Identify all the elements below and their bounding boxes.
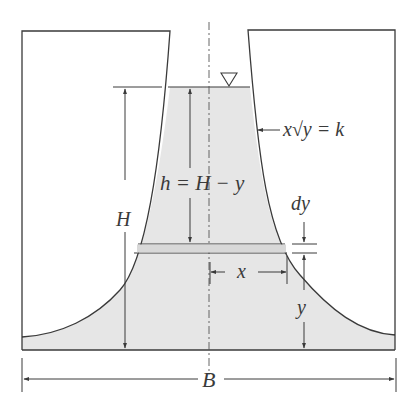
label-B: B [202,367,215,392]
label-h-relation: h = H − y [160,171,245,195]
label-H: H [115,208,132,230]
label-y: y [295,296,306,319]
label-x: x [236,260,246,282]
label-curve-equation: x√y = k [282,118,345,141]
water-surface-triangle-icon [221,73,237,86]
label-dy: dy [291,192,310,215]
tank-diagram: H h = H − y x√y = k dy y x B [0,0,417,404]
strip-fill [137,245,286,253]
